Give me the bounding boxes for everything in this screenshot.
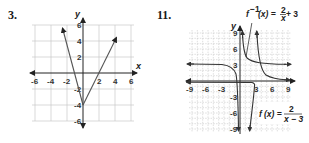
x-tick: -4 bbox=[47, 77, 55, 86]
y-tick: -4 bbox=[74, 101, 82, 110]
y-tick: 4 bbox=[77, 37, 82, 46]
y-tick: 3 bbox=[233, 61, 238, 70]
annotation-f-inverse: f −1 (x) = 2 x + 3 bbox=[244, 4, 304, 23]
x-tick: 9 bbox=[286, 85, 291, 94]
svg-text:2: 2 bbox=[289, 104, 294, 114]
x-axis-label-3: x bbox=[135, 61, 142, 71]
y-tick: 6 bbox=[233, 45, 238, 54]
svg-text:+ 3: + 3 bbox=[286, 9, 298, 19]
x-tick: -2 bbox=[63, 77, 71, 86]
x-tick: -3 bbox=[218, 85, 226, 94]
y-tick: 9 bbox=[233, 29, 238, 38]
y-tick: -3 bbox=[230, 93, 238, 102]
x-tick: 6 bbox=[270, 85, 275, 94]
annotation-f: f (x) = 2 x − 3 bbox=[258, 102, 306, 124]
charts-canvas: x y -6 -4 -2 2 4 6 6 4 2 -2 -4 -6 bbox=[0, 0, 309, 143]
series-right-ray bbox=[83, 38, 117, 106]
svg-text:(x) =: (x) = bbox=[258, 9, 276, 19]
y-tick: -9 bbox=[230, 125, 238, 134]
y-tick: 2 bbox=[77, 53, 82, 62]
svg-text:x − 3: x − 3 bbox=[283, 114, 303, 124]
x-tick: 4 bbox=[113, 77, 118, 86]
y-tick: 6 bbox=[77, 21, 82, 30]
y-tick: -6 bbox=[74, 117, 82, 126]
y-tick: -6 bbox=[230, 109, 238, 118]
graph-3: x y -6 -4 -2 2 4 6 6 4 2 -2 -4 -6 bbox=[30, 9, 142, 128]
x-tick: 2 bbox=[97, 77, 102, 86]
svg-text:(x) =: (x) = bbox=[264, 109, 282, 119]
x-tick: -9 bbox=[186, 85, 194, 94]
x-tick: 6 bbox=[129, 77, 134, 86]
x-tick: -6 bbox=[31, 77, 39, 86]
y-axis-label-3: y bbox=[74, 9, 81, 19]
x-tick: -6 bbox=[202, 85, 210, 94]
graph-11: y -9 -6 -3 3 6 9 9 6 3 -3 -6 -9 f bbox=[186, 4, 306, 134]
